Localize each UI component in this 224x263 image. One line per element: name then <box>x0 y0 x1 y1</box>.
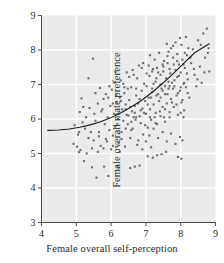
y-axis-title: Female overall mate preference <box>0 8 224 232</box>
x-axis-title: Female overall self-perception <box>0 243 224 254</box>
y-axis-title-text: Female overall mate preference <box>111 52 122 188</box>
scatter-plot-figure: 3456789456789 Female overall self-percep… <box>0 0 224 263</box>
